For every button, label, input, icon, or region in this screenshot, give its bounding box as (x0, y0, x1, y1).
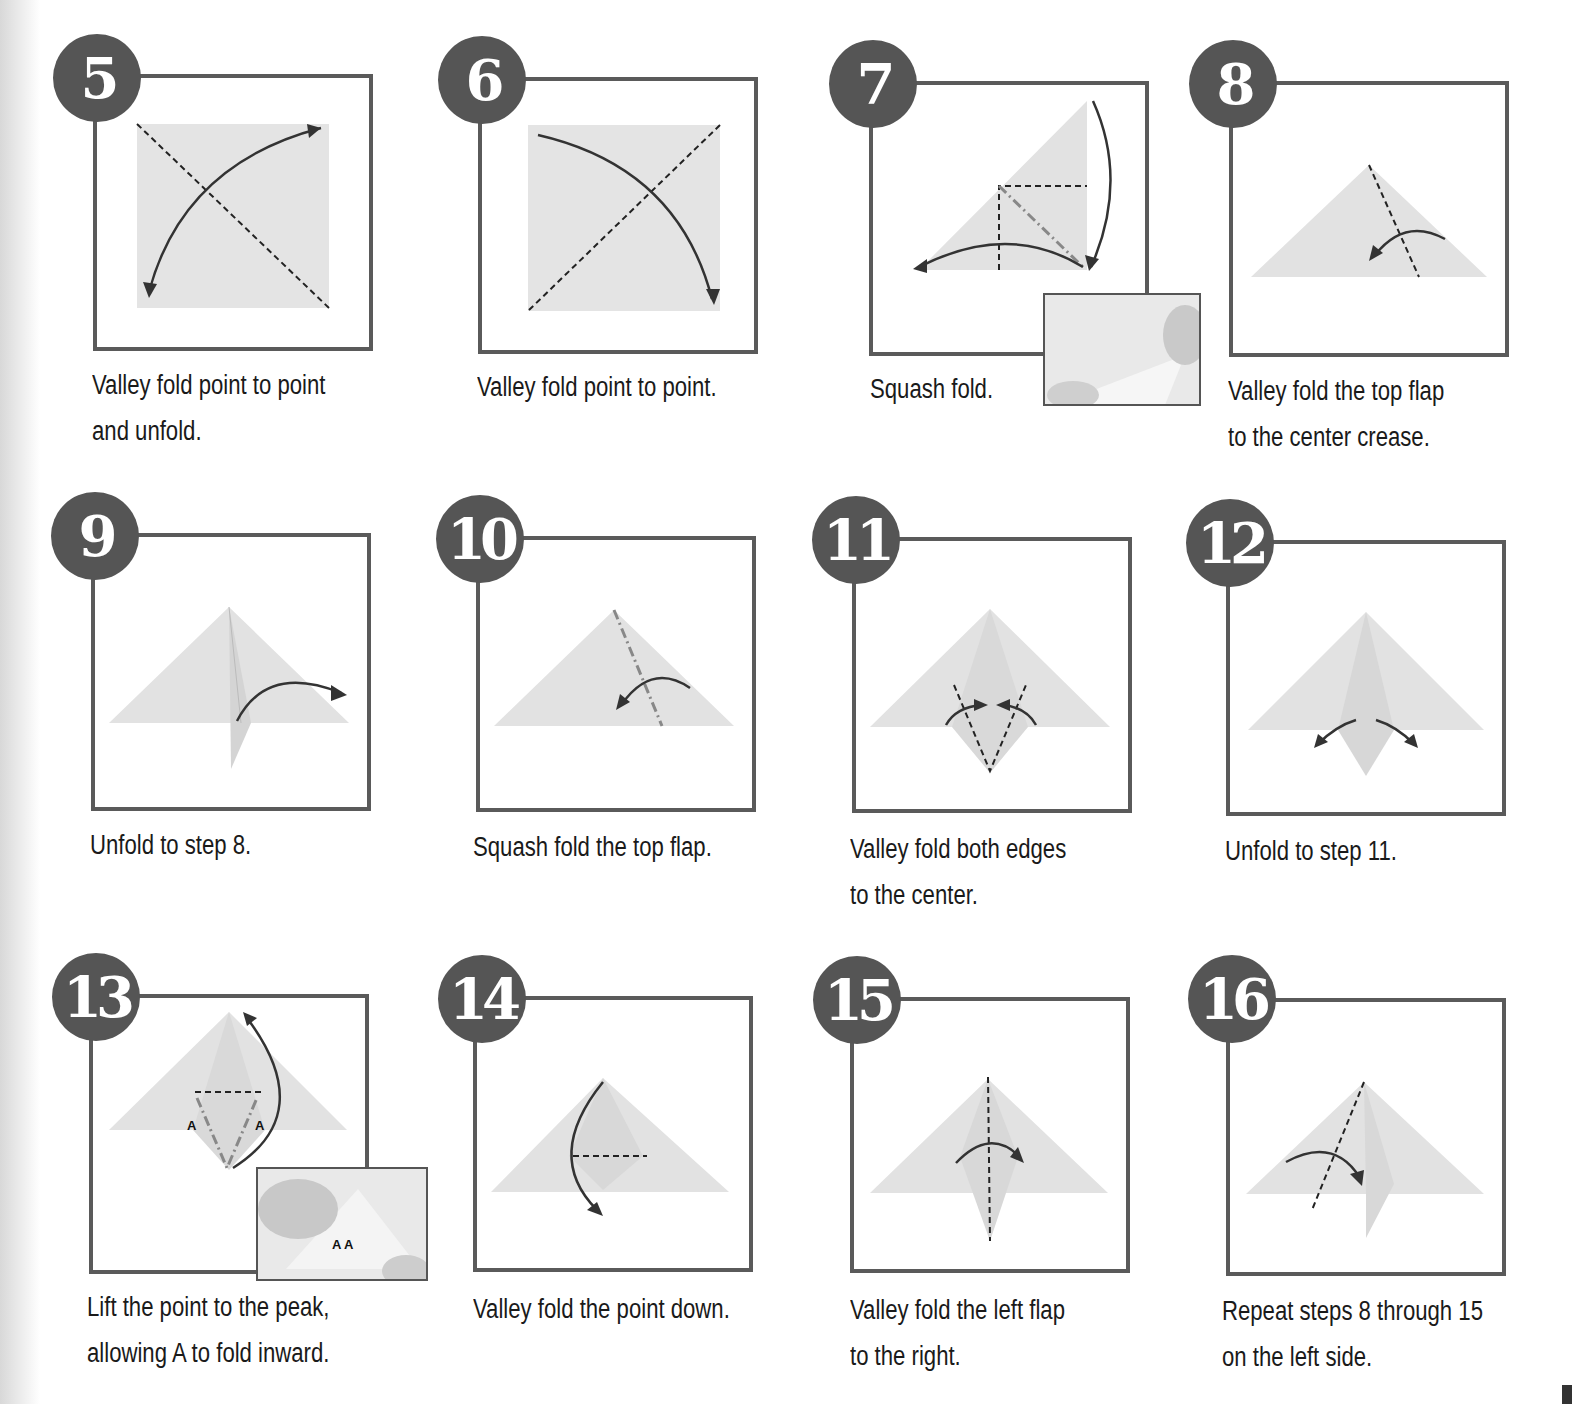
caption-line: and unfold. (92, 408, 325, 454)
caption-line: Valley fold the point down. (473, 1286, 730, 1332)
caption-line: Valley fold both edges (850, 826, 1066, 872)
step-7-photo-inset (1043, 293, 1201, 406)
step-15-diagram (850, 997, 1130, 1273)
inset-labels: A A (332, 1237, 354, 1252)
caption-line: Valley fold the top flap (1228, 368, 1444, 414)
step-7-badge: 7 (829, 40, 917, 128)
step-15-caption: Valley fold the left flap to the right. (850, 1287, 1065, 1379)
step-13-caption: Lift the point to the peak, allowing A t… (87, 1284, 329, 1376)
caption-line: on the left side. (1222, 1334, 1483, 1380)
step-8-badge: 8 (1189, 40, 1277, 128)
step-number: 6 (466, 52, 499, 108)
label-a-left: A (187, 1118, 197, 1133)
caption-line: Valley fold point to point (92, 362, 325, 408)
step-13-photo-inset: A A (256, 1167, 428, 1281)
step-5-badge: 5 (53, 34, 141, 122)
caption-line: to the right. (850, 1333, 1065, 1379)
step-12-badge: 12 (1186, 499, 1274, 587)
step-7-caption: Squash fold. (870, 366, 993, 412)
step-9-caption: Unfold to step 8. (90, 822, 251, 868)
step-number: 16 (1199, 971, 1265, 1027)
step-15-badge: 15 (813, 956, 901, 1044)
step-11-diagram (852, 537, 1132, 813)
step-number: 10 (447, 511, 513, 567)
step-number: 13 (63, 969, 129, 1025)
step-5-caption: Valley fold point to point and unfold. (92, 362, 325, 454)
step-10-badge: 10 (436, 495, 524, 583)
caption-line: to the center. (850, 872, 1066, 918)
step-16-diagram (1226, 998, 1506, 1276)
label-a-right: A (255, 1118, 265, 1133)
step-5-diagram (93, 74, 373, 351)
step-6-badge: 6 (438, 36, 526, 124)
step-number: 7 (857, 56, 890, 112)
step-9-diagram (91, 533, 371, 811)
step-12-diagram (1226, 540, 1506, 816)
step-number: 5 (81, 50, 114, 106)
step-10-diagram (476, 536, 756, 812)
caption-line: Squash fold. (870, 366, 993, 412)
page-edge-shadow (0, 0, 40, 1404)
step-10-caption: Squash fold the top flap. (473, 824, 712, 870)
step-14-caption: Valley fold the point down. (473, 1286, 730, 1332)
caption-line: to the center crease. (1228, 414, 1444, 460)
step-number: 8 (1217, 56, 1250, 112)
step-11-badge: 11 (812, 496, 900, 584)
caption-line: Valley fold point to point. (477, 364, 717, 410)
page-edge-mark (1562, 1385, 1572, 1404)
step-16-badge: 16 (1188, 955, 1276, 1043)
caption-line: Unfold to step 8. (90, 822, 251, 868)
step-6-diagram (478, 77, 758, 354)
step-14-diagram (473, 996, 753, 1272)
caption-line: allowing A to fold inward. (87, 1330, 329, 1376)
step-13-badge: 13 (52, 953, 140, 1041)
caption-line: Squash fold the top flap. (473, 824, 712, 870)
caption-line: Repeat steps 8 through 15 (1222, 1288, 1483, 1334)
step-16-caption: Repeat steps 8 through 15 on the left si… (1222, 1288, 1483, 1380)
step-14-badge: 14 (438, 955, 526, 1043)
step-number: 14 (449, 971, 515, 1027)
step-number: 11 (823, 512, 889, 568)
step-11-caption: Valley fold both edges to the center. (850, 826, 1066, 918)
step-6-caption: Valley fold point to point. (477, 364, 717, 410)
step-number: 9 (79, 508, 112, 564)
step-8-diagram (1229, 81, 1509, 357)
step-9-badge: 9 (51, 492, 139, 580)
caption-line: Lift the point to the peak, (87, 1284, 329, 1330)
caption-line: Valley fold the left flap (850, 1287, 1065, 1333)
step-number: 15 (824, 972, 890, 1028)
step-12-caption: Unfold to step 11. (1225, 828, 1397, 874)
caption-line: Unfold to step 11. (1225, 828, 1397, 874)
step-8-caption: Valley fold the top flap to the center c… (1228, 368, 1444, 460)
step-number: 12 (1197, 515, 1263, 571)
